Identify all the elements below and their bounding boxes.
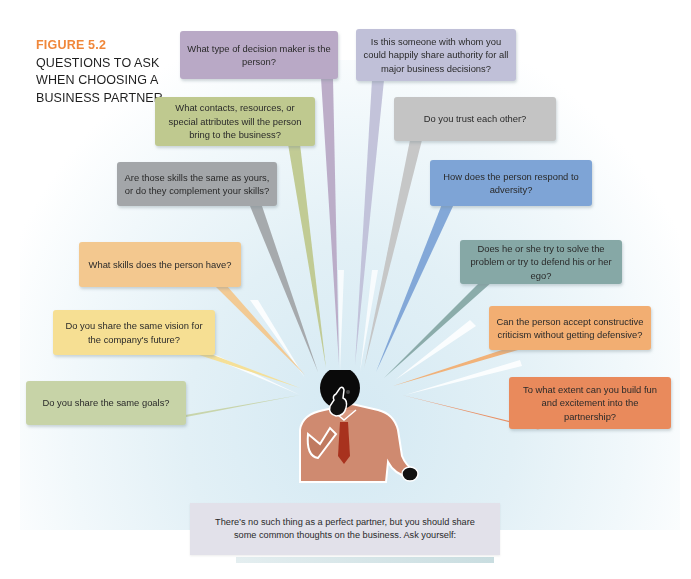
question-text: Do you share the same goals?: [42, 396, 169, 410]
question-text: Can the person accept constructive criti…: [495, 315, 645, 342]
figure-caption: FIGURE 5.2 QUESTIONS TO ASK WHEN CHOOSIN…: [36, 37, 163, 107]
question-bubble-constructive-criticism: Can the person accept constructive criti…: [489, 306, 651, 350]
intro-text: There’s no such thing as a perfect partn…: [204, 516, 486, 543]
question-text: Do you share the same vision for the com…: [59, 319, 209, 346]
tail-share-authority: [355, 80, 384, 365]
question-bubble-solve-or-defend: Does he or she try to solve the problem …: [460, 240, 622, 284]
question-bubble-trust: Do you trust each other?: [394, 97, 556, 141]
tail-vision: [190, 350, 300, 388]
question-text: Is this someone with whom you could happ…: [362, 35, 510, 76]
question-text: What contacts, resources, or special att…: [161, 101, 309, 142]
tail-solve-defend: [384, 282, 492, 378]
question-bubble-adversity: How does the person respond to adversity…: [430, 160, 592, 206]
question-text: Do you trust each other?: [424, 112, 527, 126]
question-bubble-decision-maker: What type of decision maker is the perso…: [180, 31, 338, 79]
figure-title-line: WHEN CHOOSING A: [36, 72, 163, 90]
question-bubble-skills: What skills does the person have?: [79, 242, 241, 287]
question-text: What skills does the person have?: [89, 258, 232, 272]
question-bubble-fun-excitement: To what extent can you build fun and exc…: [509, 377, 671, 429]
question-text: What type of decision maker is the perso…: [186, 42, 332, 69]
question-text: To what extent can you build fun and exc…: [515, 383, 665, 424]
figure-title-line: BUSINESS PARTNER: [36, 90, 163, 108]
figure-title-line: QUESTIONS TO ASK: [36, 55, 163, 73]
question-bubble-contacts-resources: What contacts, resources, or special att…: [155, 97, 315, 146]
thinking-person-icon: [290, 370, 430, 490]
tail-decision-maker: [321, 78, 339, 365]
question-text: Does he or she try to solve the problem …: [466, 242, 616, 283]
intro-box-shadow: [236, 557, 494, 563]
question-text: Are those skills the same as yours, or d…: [123, 171, 271, 198]
question-bubble-skills-complement: Are those skills the same as yours, or d…: [117, 162, 277, 206]
question-bubble-shared-goals: Do you share the same goals?: [26, 381, 186, 425]
figure-number: FIGURE 5.2: [36, 37, 163, 55]
intro-text-box: There’s no such thing as a perfect partn…: [190, 503, 500, 555]
question-text: How does the person respond to adversity…: [436, 170, 586, 197]
tail-contacts: [288, 144, 326, 368]
question-bubble-shared-vision: Do you share the same vision for the com…: [53, 310, 215, 355]
question-bubble-share-authority: Is this someone with whom you could happ…: [356, 29, 516, 81]
